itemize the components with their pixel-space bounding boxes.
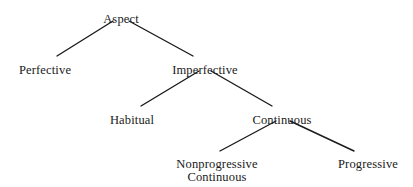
node-progressive: Progressive bbox=[338, 158, 398, 171]
node-aspect: Aspect bbox=[103, 13, 139, 26]
node-imperfective-label: Imperfective bbox=[172, 63, 238, 77]
node-continuous: Continuous bbox=[252, 114, 311, 127]
node-continuous-label: Continuous bbox=[252, 113, 311, 127]
node-perfective-label: Perfective bbox=[19, 63, 71, 77]
node-nonprogressive-continuous-label-line2: Continuous bbox=[176, 171, 257, 184]
node-aspect-label: Aspect bbox=[103, 12, 139, 26]
node-imperfective: Imperfective bbox=[172, 64, 238, 77]
node-habitual-label: Habitual bbox=[110, 113, 154, 127]
node-nonprogressive-continuous: Nonprogressive Continuous bbox=[176, 158, 257, 184]
node-progressive-label: Progressive bbox=[338, 157, 398, 171]
edge-aspect-imperfective bbox=[129, 21, 193, 56]
edge-aspect-perfective bbox=[57, 21, 113, 56]
node-habitual: Habitual bbox=[110, 114, 154, 127]
node-nonprogressive-continuous-label-line1: Nonprogressive bbox=[176, 157, 257, 171]
node-perfective: Perfective bbox=[19, 64, 71, 77]
aspect-tree-diagram: Aspect Perfective Imperfective Habitual … bbox=[0, 0, 413, 187]
